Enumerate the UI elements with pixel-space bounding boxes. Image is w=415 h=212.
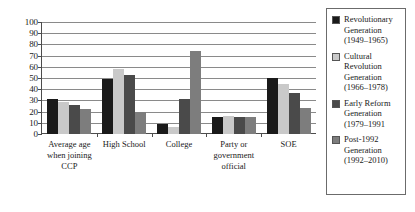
y-tick-label: 70 — [29, 51, 38, 60]
x-axis-label: College — [152, 139, 207, 172]
bar[interactable] — [179, 99, 190, 134]
bar[interactable] — [80, 109, 91, 134]
bar[interactable] — [135, 112, 146, 134]
legend-item[interactable]: Cultural Revolution Generation (1966–197… — [332, 51, 401, 93]
legend-item-label: Early Reform Generation (1979–1991 — [344, 98, 401, 130]
legend-item-label: Revolutionary Generation (1949–1965) — [344, 14, 401, 46]
bar-group — [42, 22, 97, 134]
y-tick-mark — [38, 123, 41, 124]
bar[interactable] — [300, 108, 311, 134]
bar-groups — [42, 22, 316, 134]
bar-group — [206, 22, 261, 134]
legend-item-label: Post-1992 Generation (1992–2010) — [344, 134, 401, 166]
legend-item[interactable]: Post-1992 Generation (1992–2010) — [332, 134, 401, 166]
y-tick-mark — [38, 112, 41, 113]
x-tick-mark — [261, 134, 262, 137]
y-tick-label: 90 — [29, 29, 38, 38]
y-tick-mark — [38, 134, 41, 135]
legend-swatch-early-reform — [332, 100, 340, 108]
bar[interactable] — [69, 105, 80, 134]
y-tick-mark — [38, 44, 41, 45]
bar[interactable] — [223, 116, 234, 134]
y-tick-label: 100 — [25, 18, 38, 27]
bar[interactable] — [168, 127, 179, 134]
y-tick-mark — [38, 78, 41, 79]
bar[interactable] — [234, 117, 245, 134]
y-tick-label: 30 — [29, 96, 38, 105]
bar[interactable] — [190, 51, 201, 134]
bar-chart: 0102030405060708090100 Average age when … — [0, 0, 415, 212]
bar[interactable] — [267, 78, 278, 134]
x-tick-mark — [97, 134, 98, 137]
y-tick-mark — [38, 56, 41, 57]
bar[interactable] — [289, 93, 300, 134]
y-tick-mark — [38, 67, 41, 68]
x-axis-label: Party or government official — [206, 139, 261, 172]
bar[interactable] — [212, 117, 223, 134]
bar[interactable] — [157, 124, 168, 134]
y-tick-mark — [38, 33, 41, 34]
bar[interactable] — [47, 99, 58, 134]
x-tick-mark — [206, 134, 207, 137]
bar-group — [152, 22, 207, 134]
plot-area — [42, 22, 316, 134]
y-tick-label: 20 — [29, 107, 38, 116]
bar-group — [97, 22, 152, 134]
y-tick-mark — [38, 89, 41, 90]
y-axis-labels: 0102030405060708090100 — [10, 22, 38, 134]
y-tick-label: 60 — [29, 62, 38, 71]
x-axis-label: Average age when joining CCP — [42, 139, 97, 172]
bar[interactable] — [113, 69, 124, 134]
y-tick-label: 40 — [29, 85, 38, 94]
x-axis-labels: Average age when joining CCPHigh SchoolC… — [42, 139, 316, 172]
y-tick-mark — [38, 100, 41, 101]
x-axis-label: High School — [97, 139, 152, 172]
x-axis-label: SOE — [261, 139, 316, 172]
legend-item[interactable]: Early Reform Generation (1979–1991 — [332, 98, 401, 130]
y-tick-label: 80 — [29, 40, 38, 49]
bar[interactable] — [245, 117, 256, 134]
y-tick-label: 50 — [29, 74, 38, 83]
y-tick-mark — [38, 22, 41, 23]
bar[interactable] — [124, 75, 135, 134]
bar[interactable] — [102, 79, 113, 134]
plot-wrapper: 0102030405060708090100 Average age when … — [0, 0, 415, 212]
chart-legend: Revolutionary Generation (1949–1965)Cult… — [326, 8, 406, 195]
bar[interactable] — [278, 84, 289, 134]
legend-swatch-revolutionary — [332, 16, 340, 24]
legend-swatch-cultural-revolution — [332, 53, 340, 61]
legend-swatch-post-1992 — [332, 136, 340, 144]
bar[interactable] — [58, 102, 69, 134]
y-tick-label: 10 — [29, 118, 38, 127]
bar-group — [261, 22, 316, 134]
x-tick-mark — [152, 134, 153, 137]
legend-item-label: Cultural Revolution Generation (1966–197… — [344, 51, 401, 93]
legend-item[interactable]: Revolutionary Generation (1949–1965) — [332, 14, 401, 46]
